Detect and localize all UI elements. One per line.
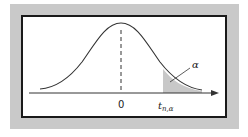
t-distribution-diagram: 0 tn,α α bbox=[0, 0, 248, 137]
alpha-label: α bbox=[192, 59, 199, 70]
axis-arrow-icon bbox=[211, 90, 219, 96]
alpha-leader-line bbox=[170, 68, 190, 82]
critical-value-label: tn,α bbox=[158, 100, 174, 113]
zero-label: 0 bbox=[118, 99, 124, 110]
